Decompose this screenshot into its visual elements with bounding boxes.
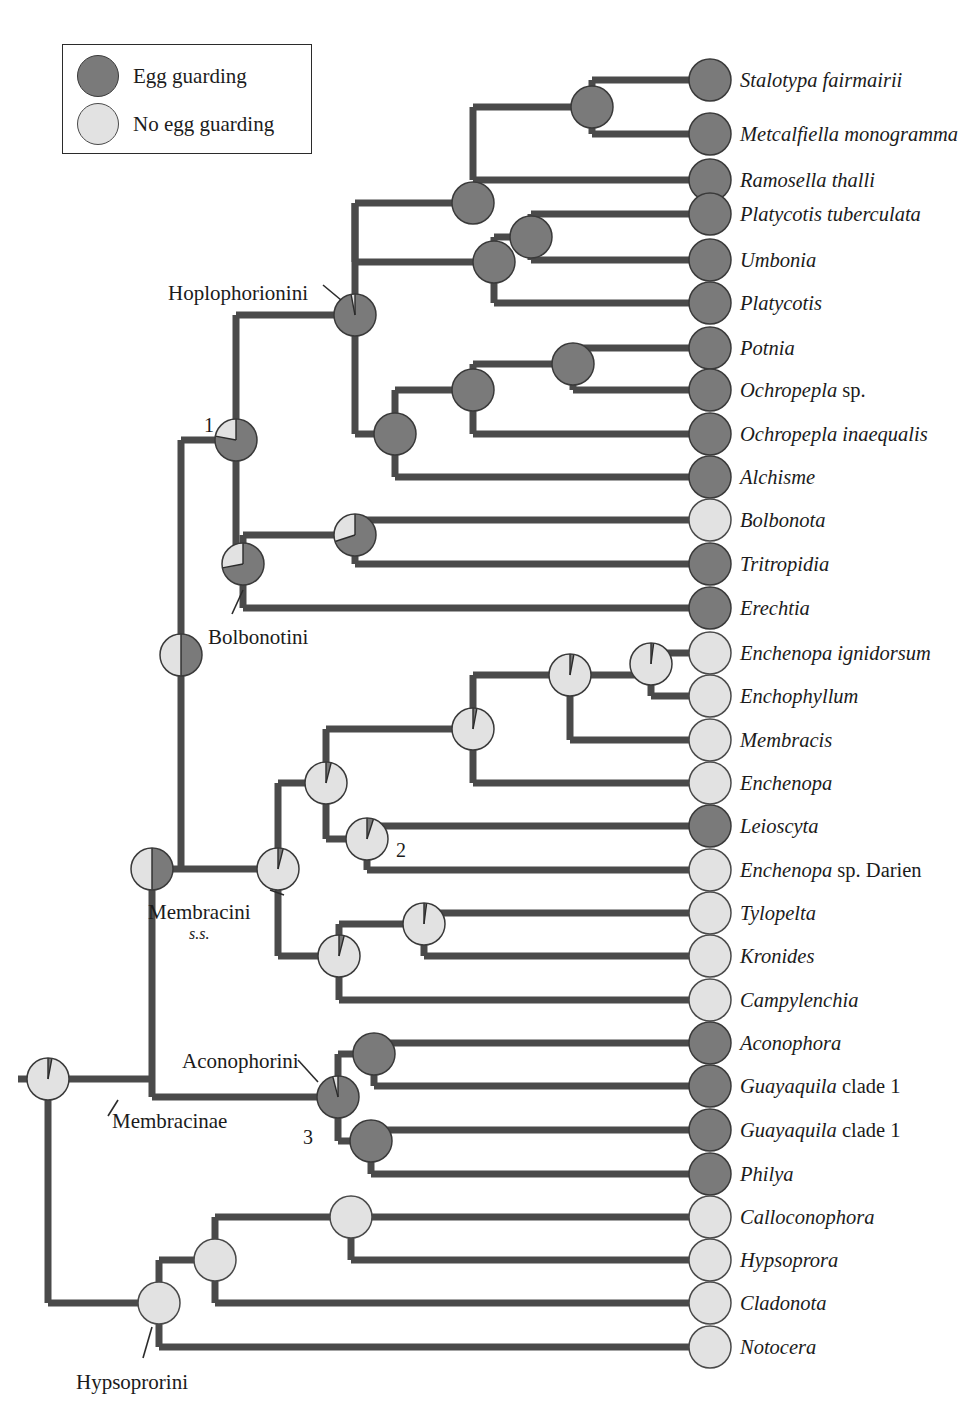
tip-label-genus: Enchenopa ignidorsum bbox=[740, 642, 931, 664]
tip-state-circle bbox=[689, 1239, 731, 1281]
internal-node-acon-b bbox=[350, 1120, 392, 1162]
clade-label-text: Membracinae bbox=[112, 1109, 227, 1133]
internal-node-memb-b bbox=[318, 935, 360, 977]
tip-label: Alchisme bbox=[740, 466, 815, 489]
internal-node-memb-a1 bbox=[452, 708, 494, 750]
tip-state-circle bbox=[689, 1065, 731, 1107]
tip-label-genus: Notocera bbox=[740, 1336, 816, 1358]
clade-label: Hypsoprorini bbox=[76, 1370, 188, 1395]
clade-label-text: Aconophorini bbox=[182, 1049, 299, 1073]
tip-label: Erechtia bbox=[740, 597, 810, 620]
tip-label-genus: Philya bbox=[740, 1163, 794, 1185]
tip-label: Enchenopa bbox=[740, 772, 832, 795]
tip-label-qualifier: sp. Darien bbox=[832, 859, 921, 881]
tip-label-genus: Membracis bbox=[740, 729, 832, 751]
tip-state-circle bbox=[689, 543, 731, 585]
tip-label: Guayaquila clade 1 bbox=[740, 1119, 901, 1142]
tip-label: Guayaquila clade 1 bbox=[740, 1075, 901, 1098]
label-leader-line bbox=[323, 285, 341, 300]
tip-label: Platycotis bbox=[740, 292, 822, 315]
label-leader-line bbox=[143, 1327, 152, 1358]
internal-node-hypsoprorini bbox=[138, 1282, 180, 1324]
tip-label: Cladonota bbox=[740, 1292, 827, 1315]
internal-node-acon-a bbox=[353, 1033, 395, 1075]
tip-label-genus: Enchenopa bbox=[740, 772, 832, 794]
internal-node-n3 bbox=[317, 1076, 359, 1118]
tip-label-genus: Erechtia bbox=[740, 597, 810, 619]
tip-label-genus: Ramosella thalli bbox=[740, 169, 875, 191]
node-number: 1 bbox=[204, 414, 214, 437]
internal-node-hyps-a bbox=[194, 1239, 236, 1281]
clade-label: Membracinae bbox=[112, 1109, 227, 1134]
clade-label-text: Bolbonotini bbox=[208, 625, 308, 649]
internal-node-hyps-a1 bbox=[330, 1196, 372, 1238]
tip-state-circle bbox=[689, 1109, 731, 1151]
tip-label: Platycotis tuberculata bbox=[740, 203, 921, 226]
tip-label: Metcalfiella monogramma bbox=[740, 123, 958, 146]
internal-node-bolb-a bbox=[334, 514, 376, 556]
tip-label-genus: Hypsoprora bbox=[740, 1249, 838, 1271]
tip-state-circle bbox=[689, 413, 731, 455]
tip-label-genus: Bolbonota bbox=[740, 509, 825, 531]
internal-node-bolbonotini bbox=[222, 543, 264, 585]
tip-state-circle bbox=[689, 499, 731, 541]
tip-label-genus: Umbonia bbox=[740, 249, 816, 271]
tip-label-genus: Kronides bbox=[740, 945, 814, 967]
clade-label: Aconophorini bbox=[182, 1049, 299, 1074]
tip-label: Philya bbox=[740, 1163, 794, 1186]
tip-state-circle bbox=[689, 456, 731, 498]
internal-node-hopl-a2 bbox=[510, 216, 552, 258]
tip-label-genus: Potnia bbox=[740, 337, 795, 359]
internal-node-memb-a3 bbox=[630, 643, 672, 685]
tip-label-genus: Platycotis bbox=[740, 292, 822, 314]
tip-label: Potnia bbox=[740, 337, 795, 360]
tip-state-circle bbox=[689, 59, 731, 101]
tip-label: Enchenopa ignidorsum bbox=[740, 642, 931, 665]
internal-node-hopl-a1 bbox=[571, 86, 613, 128]
tip-label: Enchenopa sp. Darien bbox=[740, 859, 922, 882]
clade-label: Bolbonotini bbox=[208, 625, 308, 650]
tip-label-genus: Tritropidia bbox=[740, 553, 829, 575]
internal-node-membracini bbox=[257, 848, 299, 890]
internal-node-hopl-a3 bbox=[473, 241, 515, 283]
tip-state-circle bbox=[689, 1326, 731, 1368]
internal-node-hopl-b2 bbox=[552, 343, 594, 385]
tip-label-genus: Ochropepla bbox=[740, 379, 837, 401]
internal-node-hopl-b bbox=[374, 413, 416, 455]
tip-label: Stalotypa fairmairii bbox=[740, 69, 902, 92]
node-number: 2 bbox=[396, 839, 406, 862]
tip-label-genus: Calloconophora bbox=[740, 1206, 874, 1228]
legend-swatch-egg-guarding bbox=[77, 55, 119, 97]
tip-state-circle bbox=[689, 675, 731, 717]
clade-label: Hoplophorionini bbox=[168, 281, 308, 306]
tip-state-circle bbox=[689, 719, 731, 761]
tip-state-circle bbox=[689, 327, 731, 369]
tip-label: Bolbonota bbox=[740, 509, 825, 532]
tip-label-genus: Ochropepla inaequalis bbox=[740, 423, 928, 445]
tip-label: Campylenchia bbox=[740, 989, 858, 1012]
tip-state-circle bbox=[689, 1196, 731, 1238]
tip-label-qualifier: clade 1 bbox=[837, 1075, 901, 1097]
tip-label: Tylopelta bbox=[740, 902, 816, 925]
internal-node-hopl-a bbox=[452, 182, 494, 224]
legend-label-no-egg-guarding: No egg guarding bbox=[133, 112, 274, 137]
label-leader-line bbox=[298, 1060, 318, 1082]
tip-state-circle bbox=[689, 193, 731, 235]
tip-label-genus: Cladonota bbox=[740, 1292, 827, 1314]
tip-label: Ramosella thalli bbox=[740, 169, 875, 192]
internal-node-memb-b1 bbox=[403, 903, 445, 945]
tip-label-qualifier: sp. bbox=[837, 379, 865, 401]
legend-item-egg-guarding: Egg guarding bbox=[77, 55, 247, 97]
legend-box: Egg guarding No egg guarding bbox=[62, 44, 312, 154]
legend-label-egg-guarding: Egg guarding bbox=[133, 64, 247, 89]
tip-label: Membracis bbox=[740, 729, 832, 752]
tip-label-genus: Tylopelta bbox=[740, 902, 816, 924]
legend-item-no-egg-guarding: No egg guarding bbox=[77, 103, 274, 145]
internal-node-n-membracinae2 bbox=[131, 848, 173, 890]
legend-swatch-no-egg-guarding bbox=[77, 103, 119, 145]
tip-state-circle bbox=[689, 849, 731, 891]
tip-label-genus: Stalotypa fairmairii bbox=[740, 69, 902, 91]
figure-canvas: Egg guarding No egg guarding Stalotypa f… bbox=[0, 0, 980, 1411]
tip-state-circle bbox=[689, 762, 731, 804]
tip-label: Kronides bbox=[740, 945, 814, 968]
